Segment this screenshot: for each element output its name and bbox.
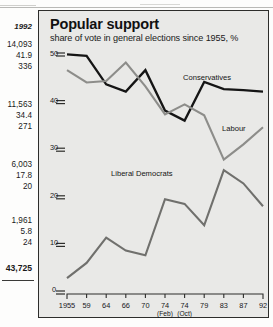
series-label-libdems: Liberal Democrats bbox=[111, 169, 173, 178]
side-group-2-value: 6,003 bbox=[12, 160, 33, 170]
plot-svg bbox=[39, 11, 270, 319]
side-group-2-seats: 20 bbox=[23, 182, 32, 192]
y-tick-label-40: 40 bbox=[50, 96, 58, 105]
series-lines bbox=[67, 54, 263, 278]
x-tick-sublabel-6: (Oct) bbox=[171, 310, 199, 317]
page-rule-top-right bbox=[140, 4, 180, 5]
y-axis-ticks bbox=[56, 53, 65, 294]
y-tick-label-30: 30 bbox=[50, 143, 58, 152]
side-numeric-column: 1992 14,093 41.9 336 11,563 34.4 271 6,0… bbox=[0, 0, 36, 327]
y-tick-label-10: 10 bbox=[50, 238, 58, 247]
series-label-conservatives: Conservatives bbox=[183, 73, 231, 82]
y-tick-label-20: 20 bbox=[50, 191, 58, 200]
chart-panel: Popular support share of vote in general… bbox=[38, 10, 269, 318]
y-tick-label-50: 50 bbox=[50, 49, 58, 58]
side-group-3-seats: 24 bbox=[23, 238, 32, 248]
side-group-3-value: 1,961 bbox=[12, 216, 33, 226]
side-group-3-pct: 5.8 bbox=[21, 227, 32, 237]
side-group-1-value: 11,563 bbox=[8, 100, 32, 110]
side-total: 43,725 bbox=[6, 263, 32, 273]
chart-page: 1992 14,093 41.9 336 11,563 34.4 271 6,0… bbox=[0, 0, 273, 327]
y-tick-label-0: 0 bbox=[52, 285, 56, 294]
side-group-0-seats: 336 bbox=[18, 62, 32, 72]
side-group-0-pct: 41.9 bbox=[16, 51, 32, 61]
side-total-rule bbox=[2, 280, 34, 281]
side-year-header: 1992 bbox=[14, 22, 32, 32]
x-tick-label-10: 92 bbox=[249, 301, 273, 310]
plot-area bbox=[39, 11, 270, 319]
series-line-liberal-democrats bbox=[67, 170, 263, 278]
side-group-2-pct: 17.8 bbox=[16, 171, 32, 181]
series-label-labour: Labour bbox=[222, 124, 246, 133]
side-group-1-pct: 34.4 bbox=[16, 111, 32, 121]
page-rule-top bbox=[0, 7, 273, 8]
side-group-0-value: 14,093 bbox=[7, 40, 32, 50]
side-group-1-seats: 271 bbox=[18, 122, 32, 132]
x-axis bbox=[67, 294, 263, 299]
series-line-conservatives bbox=[67, 54, 263, 120]
